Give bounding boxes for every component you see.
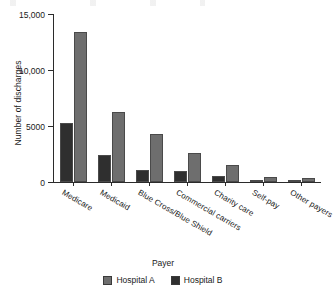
bar-group [249, 14, 281, 182]
bar-hospital-b [174, 171, 187, 182]
bar-group [287, 14, 319, 182]
x-axis-tick [73, 182, 74, 186]
bar-hospital-b [212, 176, 225, 182]
x-axis-tick [225, 182, 226, 186]
legend-swatch-icon [171, 276, 180, 285]
legend: Hospital AHospital B [0, 275, 326, 285]
x-axis-tick [111, 182, 112, 186]
bar-group [211, 14, 243, 182]
y-axis-tick: 15,000 [48, 14, 53, 15]
x-axis-tick-label: Commercial carriers [175, 188, 243, 233]
legend-item: Hospital A [103, 275, 154, 285]
x-axis-tick [149, 182, 150, 186]
legend-label: Hospital A [116, 275, 154, 285]
y-axis-tick-label: 5000 [26, 122, 45, 132]
bar-hospital-a [74, 32, 87, 182]
bar-hospital-a [226, 165, 239, 182]
bar-hospital-b [136, 170, 149, 182]
bar-hospital-b [98, 155, 111, 182]
x-axis-tick [301, 182, 302, 186]
x-axis-tick [187, 182, 188, 186]
bar-group [59, 14, 91, 182]
x-axis-title: Payer [0, 258, 326, 268]
bar-hospital-b [288, 180, 301, 182]
x-axis-tick-label: Self-pay [251, 188, 282, 211]
top-edge-artifact [0, 0, 326, 6]
x-axis-tick-label: Medicare [61, 188, 95, 213]
y-axis-title: Number of discharges [13, 28, 23, 178]
y-axis-tick-label: 10,000 [19, 66, 45, 76]
x-axis-tick-label: Medicaid [99, 188, 132, 212]
x-axis-tick [263, 182, 264, 186]
bar-group [97, 14, 129, 182]
bar-hospital-a [150, 134, 163, 182]
bar-hospital-b [60, 123, 73, 182]
bar-group [135, 14, 167, 182]
y-axis-tick-label: 15,000 [19, 10, 45, 20]
bar-group [173, 14, 205, 182]
bar-hospital-a [188, 153, 201, 182]
y-axis-tick-label: 0 [40, 178, 45, 188]
legend-item: Hospital B [171, 275, 223, 285]
plot-area [54, 14, 320, 182]
bar-hospital-a [302, 178, 315, 182]
legend-swatch-icon [103, 276, 112, 285]
y-axis-tick: 10,000 [48, 70, 53, 71]
bar-hospital-a [264, 177, 277, 182]
bar-hospital-a [112, 112, 125, 182]
bar-hospital-b [250, 180, 263, 182]
y-axis-tick: 5000 [48, 126, 53, 127]
x-axis-tick-label: Other payers [289, 188, 334, 220]
legend-label: Hospital B [184, 275, 223, 285]
